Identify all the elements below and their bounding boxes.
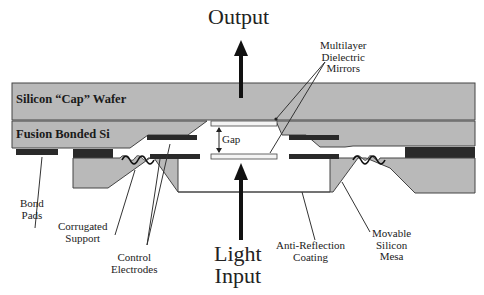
mesa-line-1: Movable xyxy=(372,228,411,240)
fusion-bonded-si-layer-right xyxy=(276,121,475,147)
control-electrodes-label: Control Electrodes xyxy=(111,252,157,275)
mesa-line-3: Mesa xyxy=(372,251,411,263)
bond-pads-label: Bond Pads xyxy=(20,198,44,221)
top-mirror xyxy=(211,121,277,126)
fabry-perot-mems-diagram: Output Light Input Silicon “Cap” Wafer F… xyxy=(0,0,484,295)
gap-arrowhead-up xyxy=(216,127,222,132)
corrugated-line-2: Support xyxy=(58,233,107,245)
light-input-line-1: Light xyxy=(214,243,262,265)
top-control-electrode-right xyxy=(289,135,339,140)
bond-pad-right xyxy=(405,147,475,159)
silicon-cap-wafer-label: Silicon “Cap” Wafer xyxy=(16,92,126,107)
bottom-control-electrode-left xyxy=(150,154,200,159)
electrodes-line-1: Control xyxy=(111,252,157,264)
fusion-bonded-si-label: Fusion Bonded Si xyxy=(16,127,110,142)
bottom-control-electrode-right xyxy=(289,154,339,159)
electrodes-line-2: Electrodes xyxy=(111,264,157,276)
movable-mesa-label: Movable Silicon Mesa xyxy=(372,228,411,263)
mirrors-line-1: Multilayer xyxy=(320,40,366,52)
input-arrowhead-icon xyxy=(234,163,248,180)
gap-arrowhead-down xyxy=(216,148,222,153)
mirrors-label: Multilayer Dielectric Mirrors xyxy=(320,40,366,75)
bond-pads-line-1: Bond xyxy=(20,198,44,210)
anti-reflection-line-1: Anti-Reflection xyxy=(276,240,345,252)
light-input-label: Light Input xyxy=(214,243,262,287)
light-input-line-2: Input xyxy=(214,265,262,287)
mirrors-line-3: Mirrors xyxy=(320,63,366,75)
bond-pads-line-2: Pads xyxy=(20,210,44,222)
bottom-mirror xyxy=(211,154,277,159)
corrugated-support-label: Corrugated Support xyxy=(58,221,107,244)
anti-reflection-line-2: Coating xyxy=(276,252,345,264)
bond-pad-step xyxy=(73,149,113,158)
output-label: Output xyxy=(208,6,269,28)
anti-reflection-label: Anti-Reflection Coating xyxy=(276,240,345,263)
top-control-electrode-left xyxy=(147,135,197,140)
bond-pad-left xyxy=(16,149,58,155)
gap-label: Gap xyxy=(222,134,240,146)
output-arrowhead-icon xyxy=(234,40,248,56)
corrugated-line-1: Corrugated xyxy=(58,221,107,233)
mirror-pointer-dot xyxy=(274,117,277,120)
